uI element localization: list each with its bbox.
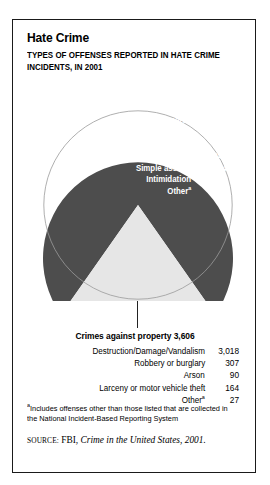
source-line: SOURCE: FBI, Crime in the United States,… bbox=[27, 435, 247, 445]
persons-row-label: Forcible rape bbox=[141, 140, 191, 152]
list-item: Larceny or motor vehicle theft 164 bbox=[31, 382, 239, 394]
property-row-value: 3,018 bbox=[205, 345, 239, 357]
persons-row-label: Othera bbox=[167, 186, 191, 198]
property-row-label: Arson bbox=[184, 369, 205, 381]
persons-row-value: 19 bbox=[191, 186, 227, 198]
persons-row-value: 4,338 bbox=[191, 174, 227, 186]
footnote-marker: a bbox=[188, 185, 191, 191]
list-item: Aggravated assault 1,242 bbox=[47, 151, 227, 163]
persons-row-label: Murder bbox=[164, 128, 191, 140]
source-agency: FBI, bbox=[61, 435, 78, 445]
list-item: Othera 19 bbox=[47, 186, 227, 198]
property-rows: Destruction/Damage/Vandalism 3,018 Robbe… bbox=[31, 345, 239, 406]
list-item: Arson 90 bbox=[31, 369, 239, 381]
persons-row-value: 2,154 bbox=[191, 163, 227, 175]
property-row-value: 307 bbox=[205, 357, 239, 369]
persons-heading: Crimes against persons 7,766 bbox=[54, 115, 227, 125]
persons-row-value: 4 bbox=[191, 140, 227, 152]
persons-row-label: Simple assault bbox=[136, 163, 191, 175]
property-row-label: Destruction/Damage/Vandalism bbox=[92, 345, 205, 357]
list-item: Simple assault 2,154 bbox=[47, 163, 227, 175]
list-item: Robbery or burglary 307 bbox=[31, 357, 239, 369]
source-publication: Crime in the United States, 2001. bbox=[81, 435, 206, 445]
list-item: Intimidation 4,338 bbox=[47, 174, 227, 186]
footnote: aIncludes offenses other than those list… bbox=[27, 404, 238, 425]
persons-row-value: 9 bbox=[191, 128, 227, 140]
figure-frame: Hate Crime TYPES OF OFFENSES REPORTED IN… bbox=[12, 19, 256, 473]
persons-row-label: Intimidation bbox=[146, 174, 191, 186]
list-item: Destruction/Damage/Vandalism 3,018 bbox=[31, 345, 239, 357]
property-row-label: Larceny or motor vehicle theft bbox=[99, 382, 205, 394]
property-row-value: 90 bbox=[205, 369, 239, 381]
persons-rows: Murder 9 Forcible rape 4 Aggravated assa… bbox=[47, 128, 227, 198]
property-row-label: Robbery or burglary bbox=[134, 357, 205, 369]
page-title: Hate Crime bbox=[27, 30, 89, 45]
list-item: Forcible rape 4 bbox=[47, 140, 227, 152]
source-label: SOURCE: bbox=[27, 436, 59, 445]
persons-row-value: 1,242 bbox=[191, 151, 227, 163]
property-row-value: 164 bbox=[205, 382, 239, 394]
persons-label-group: Crimes against persons 7,766 Murder 9 Fo… bbox=[47, 115, 227, 198]
persons-row-label: Aggravated assault bbox=[118, 151, 191, 163]
footnote-marker: a bbox=[202, 394, 205, 400]
property-leader-line bbox=[137, 301, 138, 328]
chart-subtitle: TYPES OF OFFENSES REPORTED IN HATE CRIME… bbox=[27, 50, 242, 73]
property-heading: Crimes against property 3,606 bbox=[35, 331, 235, 341]
list-item: Murder 9 bbox=[47, 128, 227, 140]
property-label-group: Crimes against property 3,606 Destructio… bbox=[31, 331, 239, 406]
footnote-text: Includes offenses other than those liste… bbox=[27, 404, 228, 423]
